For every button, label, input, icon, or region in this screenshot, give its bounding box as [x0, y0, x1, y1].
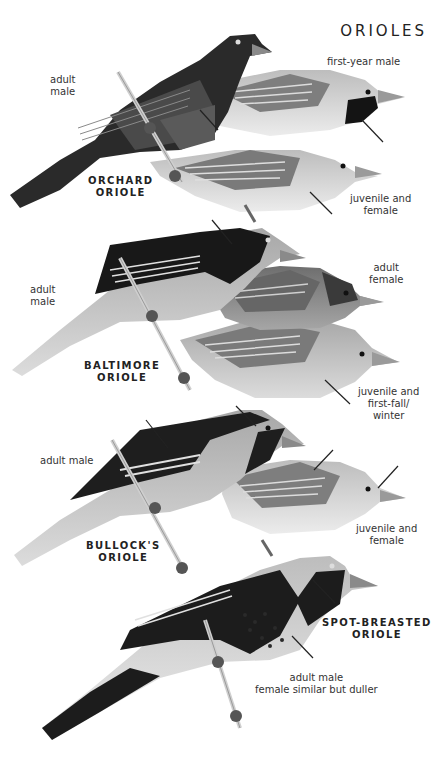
species-name-orchard-oriole: ORCHARD ORIOLE [88, 175, 153, 199]
label-bullocks-adult-male: adult male [40, 455, 94, 467]
orioles-plate: ORIOLES adult male first-year male juven… [0, 0, 443, 767]
label-baltimore-adult-male: adult male [30, 284, 56, 308]
label-bullocks-juvenile-female: juvenile and female [356, 523, 417, 547]
species-name-spot-breasted-oriole: SPOT-BREASTED ORIOLE [322, 617, 432, 641]
orchard-juvenile-bird [150, 150, 382, 222]
page-title: ORIOLES [340, 22, 427, 40]
species-name-baltimore-oriole: BALTIMORE ORIOLE [84, 360, 160, 384]
bird-illustrations [0, 0, 443, 767]
label-baltimore-juvenile-first-fall-winter: juvenile and first-fall/ winter [358, 386, 419, 422]
label-orchard-adult-male: adult male [50, 74, 76, 98]
species-name-bullocks-oriole: BULLOCK'S ORIOLE [86, 540, 161, 564]
label-spot-breasted-adult-male: adult male female similar but duller [255, 672, 378, 696]
label-orchard-first-year-male: first-year male [327, 56, 400, 68]
spot-breasted-adult-male-bird [42, 556, 378, 740]
label-baltimore-adult-female: adult female [369, 262, 403, 286]
label-orchard-juvenile-female: juvenile and female [350, 193, 411, 217]
